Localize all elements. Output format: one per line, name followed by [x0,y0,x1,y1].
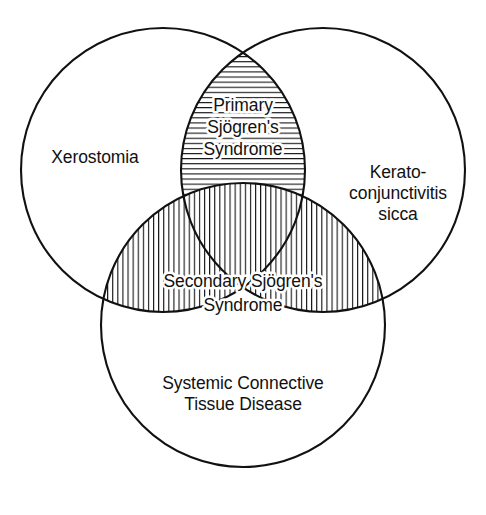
set-label-xerostomia: Xerostomia [51,147,139,167]
set-label-keratoconjunctivitis-sicca-line-2: conjunctivitis [349,183,447,203]
set-label-xerostomia-line-1: Xerostomia [51,147,139,167]
region-label-primary-sjogrens-syndrome: Primary Sjögren's Syndrome [204,95,283,159]
set-label-keratoconjunctivitis-sicca-line-3: sicca [378,204,418,224]
set-label-keratoconjunctivitis-sicca: Kerato- conjunctivitis sicca [349,162,447,224]
set-label-keratoconjunctivitis-sicca-line-1: Kerato- [370,162,427,182]
set-label-systemic-connective-tissue-disease: Systemic Connective Tissue Disease [162,373,324,414]
region-label-primary-sjogrens-syndrome-line-3: Syndrome [204,139,283,159]
region-label-primary-sjogrens-syndrome-line-2: Sjögren's [207,117,279,137]
set-label-systemic-connective-tissue-disease-line-1: Systemic Connective [162,373,324,393]
venn-diagram-canvas: Xerostomia Kerato- conjunctivitis sicca … [0,0,486,515]
set-label-systemic-connective-tissue-disease-line-2: Tissue Disease [184,394,302,414]
venn-diagram-figure: Xerostomia Kerato- conjunctivitis sicca … [0,0,486,515]
region-label-secondary-sjogrens-syndrome-line-1: Secondary Sjögren's [163,271,322,291]
region-label-secondary-sjogrens-syndrome-line-2: Syndrome [204,295,283,315]
region-label-primary-sjogrens-syndrome-line-1: Primary [213,95,273,115]
